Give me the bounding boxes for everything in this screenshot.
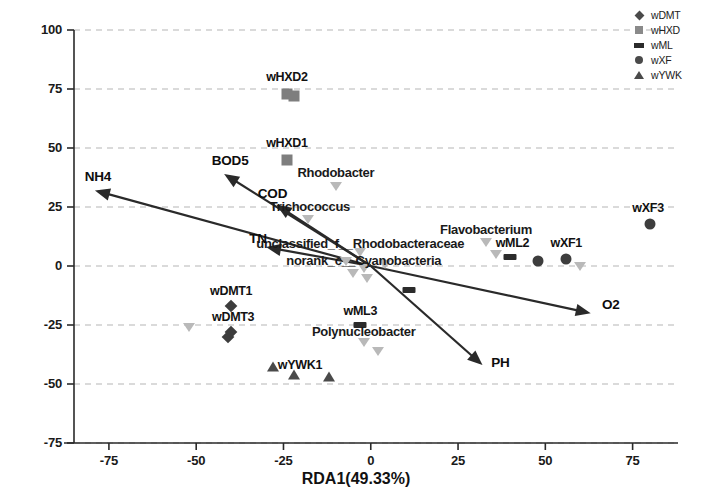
x-tick-label: -25 xyxy=(253,453,313,468)
x-tick-label: 25 xyxy=(428,453,488,468)
legend-item-wywk[interactable]: wYWK xyxy=(630,68,706,82)
x-tick-label: 0 xyxy=(341,453,401,468)
species-label: Trichococcus xyxy=(270,198,350,213)
species-marker xyxy=(361,274,373,283)
sample-marker xyxy=(281,154,292,165)
legend-item-wxf[interactable]: wXF xyxy=(630,53,706,67)
env-vector-label: PH xyxy=(491,355,509,370)
env-vector-label: O2 xyxy=(602,297,620,312)
dash-glyph xyxy=(634,43,644,48)
species-marker xyxy=(490,250,502,259)
sample-marker xyxy=(645,218,656,229)
species-marker xyxy=(302,215,314,224)
sample-marker xyxy=(323,371,335,381)
circle-icon xyxy=(630,56,648,64)
species-marker xyxy=(183,323,195,332)
sample-label: wXF1 xyxy=(551,236,582,250)
legend: wDMTwHXDwMLwXFwYWK xyxy=(630,8,706,83)
sample-marker xyxy=(281,88,292,99)
sample-label: wML2 xyxy=(496,236,530,250)
sample-marker xyxy=(533,256,544,267)
legend-label: wYWK xyxy=(651,69,682,81)
species-label: norank_c__Cyanobacteria xyxy=(286,253,441,268)
square-glyph xyxy=(635,26,643,34)
legend-label: wML xyxy=(651,39,673,51)
y-tick-label: 75 xyxy=(0,81,62,96)
square-icon xyxy=(630,26,648,34)
legend-item-whxd[interactable]: wHXD xyxy=(630,23,706,37)
env-vector-label: COD xyxy=(258,185,287,200)
x-tick-label: 75 xyxy=(603,453,663,468)
x-tick-label: -50 xyxy=(166,453,226,468)
circle-glyph xyxy=(635,56,643,64)
triangle-icon xyxy=(630,71,648,79)
legend-label: wHXD xyxy=(651,24,680,36)
y-tick-label: -50 xyxy=(0,376,62,391)
species-marker xyxy=(358,337,370,346)
sample-label: wDMT3 xyxy=(212,310,254,324)
sample-marker xyxy=(561,253,572,264)
sample-label: wYWK1 xyxy=(278,358,322,372)
x-axis-title: RDA1(49.33%) xyxy=(0,470,712,488)
dash-icon xyxy=(630,43,648,48)
env-vector-label: BOD5 xyxy=(212,152,249,167)
y-tick-label: 25 xyxy=(0,199,62,214)
diamond-glyph xyxy=(634,10,644,20)
legend-label: wDMT xyxy=(651,9,681,21)
species-label: Polynucleobacter xyxy=(312,323,416,338)
sample-label: wHXD1 xyxy=(266,136,308,150)
legend-item-wdmt[interactable]: wDMT xyxy=(630,8,706,22)
diamond-icon xyxy=(630,12,648,19)
legend-item-wml[interactable]: wML xyxy=(630,38,706,52)
triangle-glyph xyxy=(634,71,644,79)
y-tick-label: -75 xyxy=(0,435,62,450)
sample-label: wHXD2 xyxy=(266,70,308,84)
env-vector-label: NH4 xyxy=(85,169,111,184)
sample-marker xyxy=(403,287,416,293)
species-marker xyxy=(372,347,384,356)
x-tick-label: -75 xyxy=(79,453,139,468)
sample-label: wDMT1 xyxy=(210,284,252,298)
env-vector-label: TN xyxy=(249,231,267,246)
y-tick-label: 0 xyxy=(0,258,62,273)
species-marker xyxy=(574,262,586,271)
y-tick-label: 50 xyxy=(0,140,62,155)
sample-marker xyxy=(504,254,517,260)
legend-label: wXF xyxy=(651,54,671,66)
rda-ordination-figure: RDA1(49.33%) RDA2(23.86%) RhodobacterTri… xyxy=(0,0,712,499)
species-label: unclassified_f__Rhodobacteraceae xyxy=(256,235,464,250)
sample-label: wXF3 xyxy=(632,201,663,215)
x-tick-label: 50 xyxy=(515,453,575,468)
sample-label: wML3 xyxy=(344,304,378,318)
species-label: Rhodobacter xyxy=(297,164,374,179)
plot-area: RhodobacterTrichococcusunclassified_f__R… xyxy=(74,30,678,443)
y-tick-label: -25 xyxy=(0,317,62,332)
y-tick-label: 100 xyxy=(0,22,62,37)
species-marker xyxy=(480,238,492,247)
species-marker xyxy=(330,182,342,191)
